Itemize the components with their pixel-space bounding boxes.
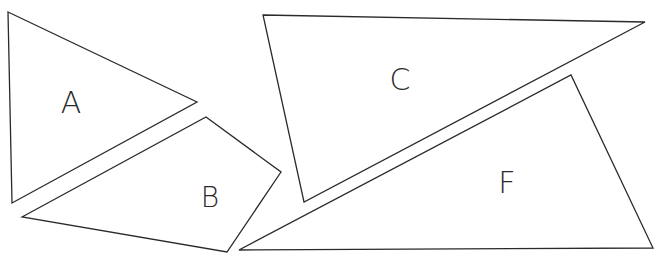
label-a: A [61,85,82,120]
triangle-a [8,12,197,203]
shapes-diagram: A B C F [0,0,658,257]
shape-a: A [8,12,197,203]
label-f: F [498,165,515,200]
shape-c: C [263,15,645,202]
quadrilateral-b [22,117,281,252]
triangle-f [239,75,653,250]
shape-f: F [239,75,653,250]
label-c: C [390,62,411,97]
triangle-c [263,15,645,202]
diagram-svg: A B C F [0,0,658,257]
label-b: B [201,181,219,214]
shape-b: B [22,117,281,252]
